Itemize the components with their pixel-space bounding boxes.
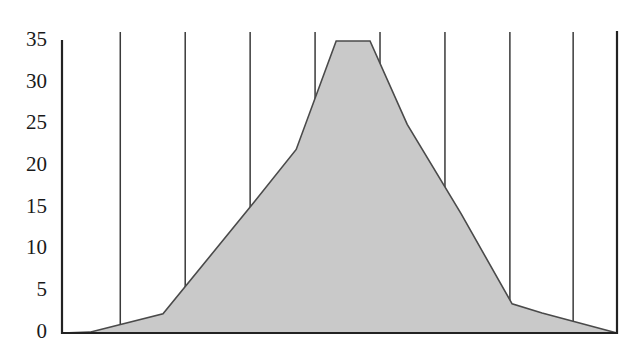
y-tick-label-0: 0	[37, 319, 48, 343]
y-tick-label-5: 5	[37, 277, 48, 301]
y-tick-label-20: 20	[26, 152, 47, 176]
y-tick-label-15: 15	[26, 194, 47, 218]
y-tick-label-25: 25	[26, 110, 47, 134]
y-tick-label-30: 30	[26, 69, 47, 93]
y-tick-label-35: 35	[26, 27, 47, 51]
area-chart: 35302520151050	[0, 0, 639, 360]
chart-container: 35302520151050	[0, 0, 639, 360]
y-tick-label-10: 10	[26, 235, 47, 259]
